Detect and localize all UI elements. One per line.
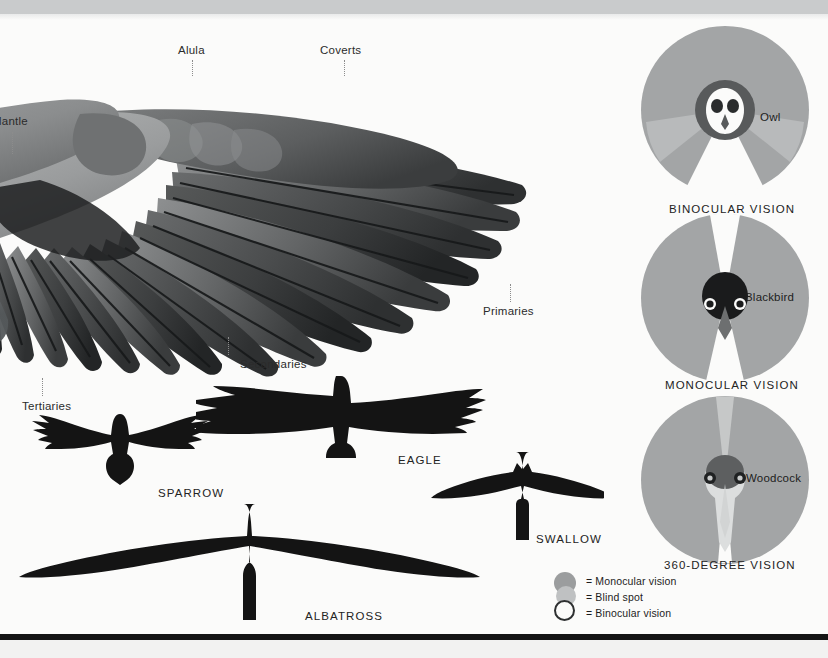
legend-label-blind-spot: = Blind spot xyxy=(586,591,643,603)
top-gray-band xyxy=(0,0,828,14)
legend-label-monocular: = Monocular vision xyxy=(586,575,677,587)
top-band-fade xyxy=(0,14,828,20)
silhouette-label-sparrow: SPARROW xyxy=(158,487,224,499)
vision-bird-label-woodcock: Woodcock xyxy=(746,472,801,484)
leader-secondaries xyxy=(228,337,230,355)
silhouette-albatross xyxy=(8,504,480,624)
bird-wing-illustration xyxy=(0,52,630,397)
vision-bird-label-blackbird: Blackbird xyxy=(745,291,794,303)
silhouette-sparrow xyxy=(30,414,210,496)
vision-caption-monocular: MONOCULAR VISION xyxy=(665,379,799,391)
vision-legend: = Monocular vision = Blind spot = Binocu… xyxy=(548,570,738,632)
vision-diagram-owl xyxy=(640,26,810,200)
wing-label-secondaries: Secondaries xyxy=(240,358,307,370)
wing-label-mantle: Mantle xyxy=(0,115,28,127)
vision-bird-label-owl: Owl xyxy=(760,111,780,123)
bottom-strip xyxy=(0,640,828,658)
binocular-swatch xyxy=(554,600,575,621)
leader-tertiaries xyxy=(42,378,44,396)
wing-label-coverts: Coverts xyxy=(320,44,361,56)
infographic-page: Mantle Alula Coverts Primaries Secondari… xyxy=(0,0,828,658)
wing-label-primaries: Primaries xyxy=(483,305,534,317)
leader-alula xyxy=(192,60,194,76)
silhouette-label-swallow: SWALLOW xyxy=(536,533,602,545)
leader-mantle xyxy=(12,132,14,154)
legend-label-binocular: = Binocular vision xyxy=(586,607,671,619)
silhouette-label-albatross: ALBATROSS xyxy=(305,610,383,622)
leader-coverts xyxy=(344,60,346,76)
underwing-shadow xyxy=(0,180,140,261)
silhouette-eagle xyxy=(196,376,486,462)
wing-label-tertiaries: Tertiaries xyxy=(22,400,71,412)
leader-primaries xyxy=(510,284,512,302)
silhouette-label-eagle: EAGLE xyxy=(398,454,442,466)
wing-label-alula: Alula xyxy=(178,44,205,56)
